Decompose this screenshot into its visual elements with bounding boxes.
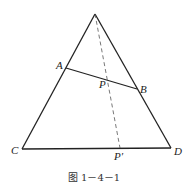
label-p-prime: P′ — [113, 150, 124, 162]
label-p: P — [98, 78, 106, 90]
geometry-diagram: A B P C D P′ 图 1－4－1 — [0, 0, 185, 191]
segment-cd — [22, 148, 171, 149]
label-b: B — [140, 83, 147, 95]
label-d: D — [173, 145, 182, 157]
side-apex-c — [22, 14, 95, 149]
figure-caption: 图 1－4－1 — [68, 172, 120, 183]
side-apex-d — [95, 14, 171, 148]
label-c: C — [11, 144, 19, 156]
label-a: A — [55, 59, 63, 71]
